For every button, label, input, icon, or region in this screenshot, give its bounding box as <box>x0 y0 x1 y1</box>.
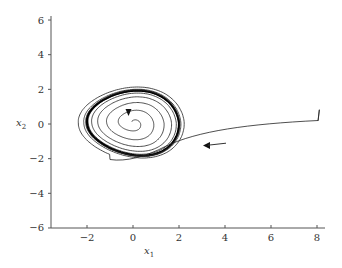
x-tick-label: 2 <box>176 232 182 243</box>
y-tick-label: −6 <box>29 222 44 233</box>
phase-portrait: −6−4−20246 −202468 x1 x2 <box>0 0 342 268</box>
x-tick-label: 8 <box>314 232 320 243</box>
arrow-left-shaft <box>208 143 226 145</box>
y-tick-label: 2 <box>38 84 44 95</box>
x-tick-label: 4 <box>222 232 228 243</box>
x-tick-label: −2 <box>80 232 95 243</box>
x-axis-label: x1 <box>144 245 154 259</box>
y-tick-label: 6 <box>38 15 44 26</box>
axes: −6−4−20246 −202468 <box>29 15 325 243</box>
y-axis-label: x2 <box>16 117 26 131</box>
y-ticks: −6−4−20246 <box>29 15 51 234</box>
y-tick-label: 0 <box>38 119 44 130</box>
x-tick-label: 6 <box>268 232 274 243</box>
start-hook <box>318 110 319 120</box>
y-tick-label: −4 <box>29 188 44 199</box>
y-tick-label: 4 <box>38 49 44 60</box>
x-tick-label: 0 <box>130 232 136 243</box>
trajectories <box>78 87 319 160</box>
y-tick-label: −2 <box>29 153 44 164</box>
